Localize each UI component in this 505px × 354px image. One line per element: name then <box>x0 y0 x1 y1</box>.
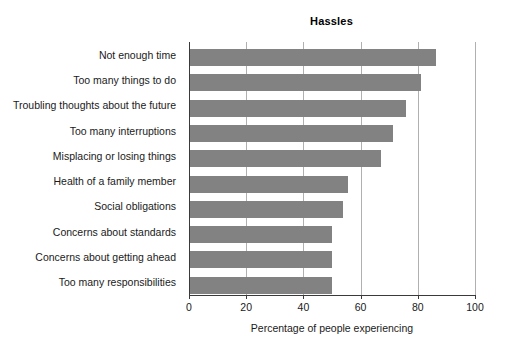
y-axis-label: Misplacing or losing things <box>0 150 176 162</box>
plot-area <box>189 42 475 295</box>
bar <box>189 201 343 218</box>
chart-figure: Hassles Not enough timeToo many things t… <box>0 0 505 354</box>
y-axis-label: Concerns about standards <box>0 226 176 238</box>
bar-row <box>189 118 475 143</box>
bar <box>189 74 421 91</box>
y-axis-label: Too many interruptions <box>0 125 176 137</box>
bar <box>189 226 332 243</box>
x-axis-tick <box>189 295 190 299</box>
bar-row <box>189 169 475 194</box>
x-axis-tick-label: 40 <box>283 301 323 313</box>
x-axis-tick <box>475 295 476 299</box>
y-axis-label: Troubling thoughts about the future <box>0 99 176 111</box>
bars-layer <box>189 42 475 295</box>
bar <box>189 150 381 167</box>
x-axis-tick-label: 100 <box>455 301 495 313</box>
bar-row <box>189 244 475 269</box>
x-axis-line <box>189 295 475 296</box>
bar-row <box>189 67 475 92</box>
x-axis-tick <box>303 295 304 299</box>
y-axis-label-group: Not enough timeToo many things to doTrou… <box>0 42 183 295</box>
x-axis-tick <box>246 295 247 299</box>
y-axis-label: Not enough time <box>0 49 176 61</box>
y-axis-label: Concerns about getting ahead <box>0 251 176 263</box>
bar-row <box>189 93 475 118</box>
x-axis-tick-label: 80 <box>398 301 438 313</box>
gridline-100 <box>475 42 476 295</box>
chart-title: Hassles <box>189 15 474 27</box>
bar-row <box>189 270 475 295</box>
x-axis-tick-label: 20 <box>226 301 266 313</box>
y-axis-label: Too many responsibilities <box>0 276 176 288</box>
bar <box>189 251 332 268</box>
x-axis-tick-label: 60 <box>341 301 381 313</box>
y-axis-line <box>189 42 190 295</box>
x-axis-tick <box>418 295 419 299</box>
bar <box>189 277 332 294</box>
bar-row <box>189 219 475 244</box>
y-axis-label: Too many things to do <box>0 74 176 86</box>
y-axis-label: Social obligations <box>0 200 176 212</box>
bar-row <box>189 143 475 168</box>
bar <box>189 49 436 66</box>
bar <box>189 176 348 193</box>
bar <box>189 100 406 117</box>
y-axis-label: Health of a family member <box>0 175 176 187</box>
bar-row <box>189 194 475 219</box>
bar-row <box>189 42 475 67</box>
x-axis-tick <box>361 295 362 299</box>
bar <box>189 125 393 142</box>
x-axis-tick-label: 0 <box>169 301 209 313</box>
x-axis-title: Percentage of people experiencing <box>189 322 475 334</box>
